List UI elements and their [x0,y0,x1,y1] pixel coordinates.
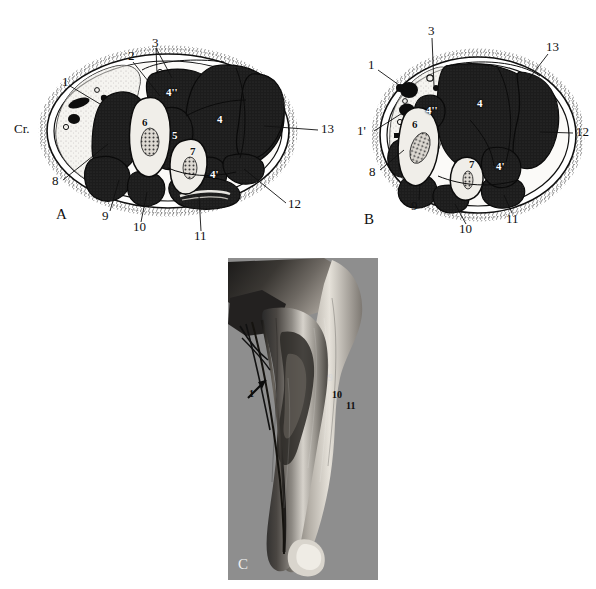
panel-c-label-1: 1 [249,388,254,399]
panel-b-label-13: 13 [546,40,559,53]
panel-c-specimen [228,258,378,580]
figure-plate: Cr. A 1 2 3 8 9 10 11 12 13 4'' 6 5 7 4 … [0,0,596,589]
panel-b-inner-7: 7 [469,158,475,170]
panel-c-photograph [228,258,378,580]
panel-b-label-1: 1 [368,58,375,71]
panel-b-inner-4: 4 [477,97,483,109]
panel-b-letter: B [364,211,374,228]
panel-c-label-10: 10 [332,389,342,400]
panel-b-label-10: 10 [459,222,472,235]
panel-b-label-12: 12 [576,125,589,138]
panel-b-inner-4dd: 4'' [426,104,438,116]
panel-b-label-1p: 1' [357,124,366,137]
panel-b-label-11: 11 [506,212,519,225]
panel-b-inner-6: 6 [412,118,418,130]
panel-b-label-9: 9 [411,199,418,212]
panel-c-letter: C [238,556,248,573]
panel-c-label-9: 9 [328,372,333,383]
panel-b-inner-4p: 4' [496,160,505,172]
panel-c-label-11: 11 [346,400,355,411]
panel-b-label-8: 8 [369,165,376,178]
panel-b-label-3: 3 [428,24,435,37]
